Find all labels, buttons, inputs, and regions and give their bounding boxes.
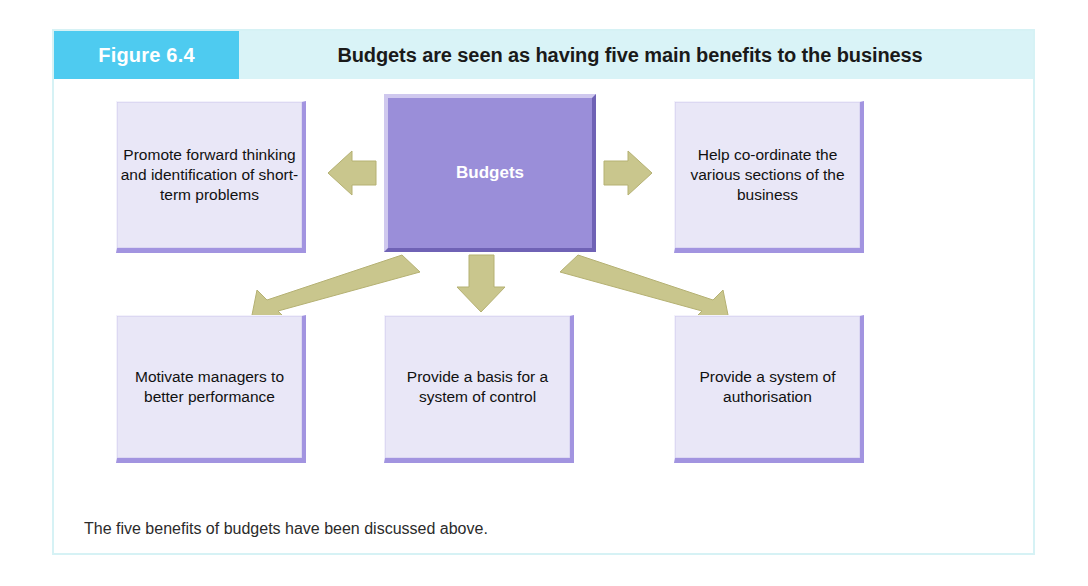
benefit-node-control: Provide a basis for a system of control — [384, 315, 574, 463]
arrow-to-forward-thinking-icon — [328, 151, 376, 195]
figure-title: Budgets are seen as having five main ben… — [239, 31, 1033, 79]
figure-number-badge: Figure 6.4 — [54, 31, 239, 79]
arrow-to-control-icon — [457, 255, 505, 312]
figure-header: Figure 6.4 Budgets are seen as having fi… — [54, 31, 1033, 79]
benefit-node-forward-thinking: Promote forward thinking and identificat… — [116, 101, 306, 253]
benefit-node-authorisation: Provide a system of authorisation — [674, 315, 864, 463]
benefit-node-motivate: Motivate managers to better performance — [116, 315, 306, 463]
center-node-budgets: Budgets — [384, 94, 596, 252]
benefit-node-coordinate: Help co-ordinate the various sections of… — [674, 101, 864, 253]
figure-caption: The five benefits of budgets have been d… — [54, 505, 1033, 553]
figure-frame: Figure 6.4 Budgets are seen as having fi… — [52, 29, 1035, 555]
arrow-to-coordinate-icon — [604, 151, 652, 195]
diagram-canvas: Promote forward thinking and identificat… — [54, 79, 1033, 505]
